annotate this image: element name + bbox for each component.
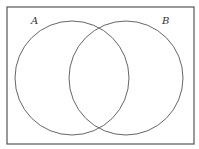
set-b-label: B: [161, 15, 169, 26]
venn-diagram: A B: [0, 0, 199, 149]
set-b-circle: [69, 21, 183, 135]
set-a-label: A: [30, 15, 38, 26]
set-a-circle: [15, 21, 129, 135]
